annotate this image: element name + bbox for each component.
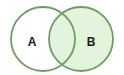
set-b-label: B: [87, 35, 96, 49]
set-a-label: A: [28, 35, 37, 49]
venn-diagram: A B: [0, 0, 124, 75]
